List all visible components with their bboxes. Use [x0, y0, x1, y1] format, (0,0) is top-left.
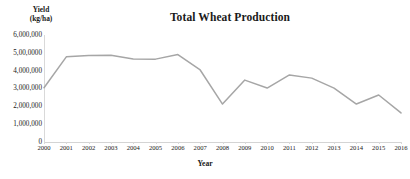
- x-axis-tick-labels: 2000200120022003200420052006200720082009…: [44, 144, 401, 158]
- x-axis-tick-mark: [66, 142, 67, 144]
- x-axis-tick-mark: [267, 142, 268, 144]
- x-axis-tick-mark: [44, 142, 45, 144]
- x-axis-title: Year: [0, 159, 410, 168]
- x-axis-tick-mark: [379, 142, 380, 144]
- x-axis-tick-mark: [223, 142, 224, 144]
- x-axis-tick-mark: [200, 142, 201, 144]
- x-axis-tick-mark: [401, 142, 402, 144]
- x-axis-tick-mark: [178, 142, 179, 144]
- x-axis-tick-mark: [111, 142, 112, 144]
- x-axis-tick-label: 2016: [386, 144, 410, 151]
- x-axis-tick-mark: [156, 142, 157, 144]
- x-axis-tick-mark: [312, 142, 313, 144]
- chart-container: Total Wheat Production Yield (kg/ha) 01,…: [0, 0, 410, 179]
- wheat-production-line: [44, 55, 401, 113]
- x-axis-tick-mark: [334, 142, 335, 144]
- x-axis-tick-mark: [289, 142, 290, 144]
- x-axis-tick-mark: [89, 142, 90, 144]
- x-axis-tick-mark: [133, 142, 134, 144]
- x-axis-tick-mark: [245, 142, 246, 144]
- x-axis-tick-mark: [356, 142, 357, 144]
